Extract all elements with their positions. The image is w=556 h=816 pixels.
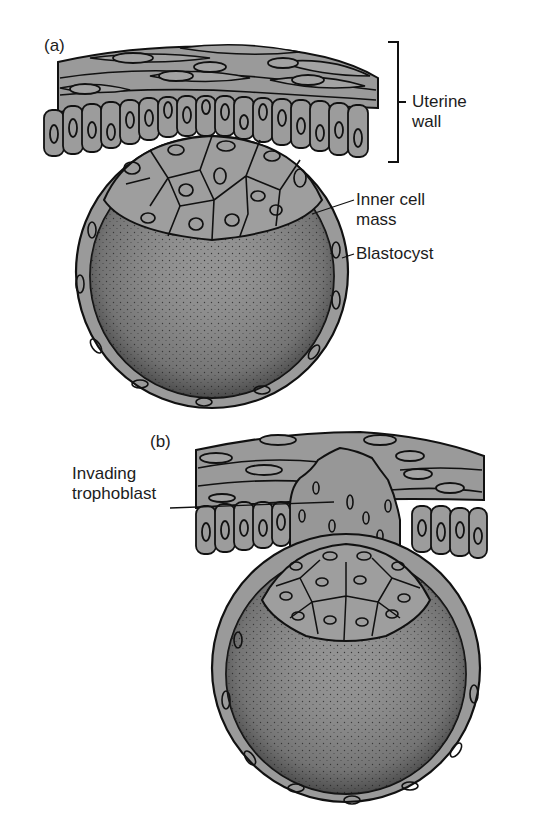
uterine-wall-label: Uterine wall: [412, 92, 467, 132]
invading-trophoblast-label: Invading trophoblast: [72, 464, 156, 504]
panel-a-blastocyst: [76, 136, 354, 408]
blastocyst-label: Blastocyst: [356, 244, 433, 264]
panel-a-label: (a): [44, 36, 65, 56]
inner-cell-mass-label: Inner cell mass: [356, 190, 425, 230]
panel-b-blastocyst: [212, 534, 480, 804]
implantation-illustration: [0, 0, 556, 816]
figure-canvas: (a) Uterine wall Inner cell mass Blastoc…: [0, 0, 556, 816]
panel-b-label: (b): [150, 432, 171, 452]
